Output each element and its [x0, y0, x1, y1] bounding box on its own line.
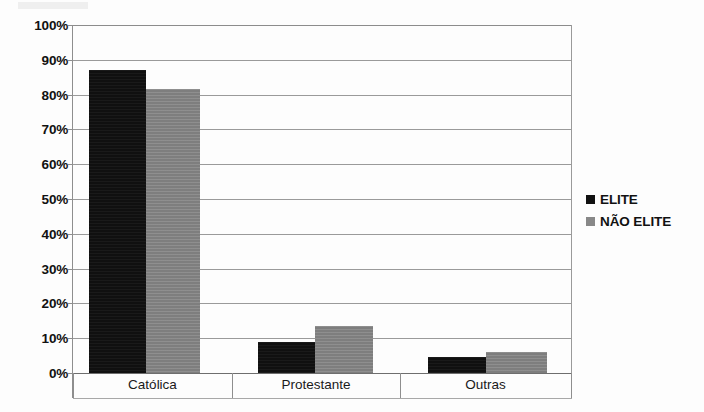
bar-protestante-noelite: [315, 326, 373, 373]
y-tick-label-60%: 60%: [6, 157, 68, 172]
y-tick-label-70%: 70%: [6, 122, 68, 137]
x-axis-label-outras: Outras: [400, 377, 571, 392]
y-tick-label-10%: 10%: [6, 331, 68, 346]
plot-right-border: [571, 25, 572, 398]
y-axis-tick-labels: 0%10%20%30%40%50%60%70%80%90%100%: [0, 0, 68, 412]
y-tick-label-30%: 30%: [6, 261, 68, 276]
x-axis-label-protestante: Protestante: [232, 377, 400, 392]
y-tick-label-90%: 90%: [6, 52, 68, 67]
bar-catlica-noelite: [146, 89, 200, 373]
gridline-90: [73, 60, 571, 61]
axis-baseline: [73, 373, 571, 374]
bar-protestante-elite: [258, 342, 315, 373]
legend-item-nao-elite[interactable]: NÃO ELITE: [586, 210, 698, 232]
y-tick-label-80%: 80%: [6, 87, 68, 102]
y-tick-label-20%: 20%: [6, 296, 68, 311]
category-separator-3: [571, 373, 572, 398]
bar-catlica-elite: [89, 70, 146, 373]
gridline-100: [73, 25, 571, 26]
x-axis-label-catlica: Católica: [73, 377, 232, 392]
legend-swatch-icon-nao-elite: [586, 217, 595, 226]
x-axis-bottom-line: [73, 398, 572, 399]
legend-swatch-icon-elite: [586, 195, 595, 204]
y-tick-label-40%: 40%: [6, 226, 68, 241]
bar-chart: 0%10%20%30%40%50%60%70%80%90%100% Católi…: [0, 0, 704, 412]
legend: ELITE NÃO ELITE: [586, 188, 698, 232]
legend-label-nao-elite: NÃO ELITE: [600, 214, 671, 229]
y-tick-label-50%: 50%: [6, 192, 68, 207]
bar-outras-elite: [428, 357, 486, 373]
legend-label-elite: ELITE: [600, 192, 638, 207]
bar-outras-noelite: [486, 352, 547, 373]
y-tick-label-100%: 100%: [6, 18, 68, 33]
legend-item-elite[interactable]: ELITE: [586, 188, 698, 210]
plot-area: [73, 25, 571, 373]
y-tick-label-0%: 0%: [6, 366, 68, 381]
